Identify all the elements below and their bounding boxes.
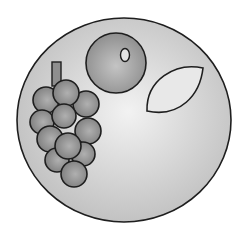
orange-body: [86, 33, 146, 93]
orange-highlight: [121, 49, 130, 62]
fruit-plate-svg: [0, 0, 244, 233]
fruit-plate-illustration: Plate of fruit: [0, 0, 244, 233]
grape-berry: [61, 161, 87, 187]
orange: [86, 33, 146, 93]
grape-berry: [53, 80, 79, 106]
grape-berry: [52, 104, 76, 128]
grape-berry: [55, 133, 81, 159]
